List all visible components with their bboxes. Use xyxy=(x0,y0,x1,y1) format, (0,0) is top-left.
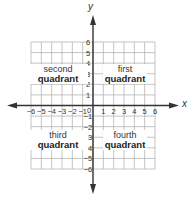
coordinate-plane: −6−5−4−3−2−1123456 654321−1−2−3−4−5−6 0 xyxy=(0,0,194,201)
x-tick-label: 4 xyxy=(132,107,136,116)
x-tick-label: 5 xyxy=(143,107,147,116)
first-quadrant-label: first quadrant xyxy=(103,64,147,84)
third-quadrant-label: third quadrant xyxy=(28,130,88,150)
third-quadrant-line2: quadrant xyxy=(28,140,88,150)
y-tick-label: 5 xyxy=(86,49,90,58)
x-axis-label: x xyxy=(182,98,187,109)
y-axis-label: y xyxy=(88,1,93,12)
y-tick-label: 1 xyxy=(86,91,90,100)
x-tick-label: −5 xyxy=(37,107,46,116)
x-tick-label: 6 xyxy=(153,107,157,116)
x-tick-label: −6 xyxy=(27,107,36,116)
fourth-quadrant-line2: quadrant xyxy=(103,140,147,150)
x-tick-label: −4 xyxy=(47,107,56,116)
x-tick-label: 1 xyxy=(101,107,105,116)
fourth-quadrant-label: fourth quadrant xyxy=(103,130,147,150)
y-tick-label: 6 xyxy=(86,38,90,47)
x-tick-label: 2 xyxy=(112,107,116,116)
second-quadrant-label: second quadrant xyxy=(28,64,88,84)
y-tick-label: −5 xyxy=(84,154,93,163)
first-quadrant-line2: quadrant xyxy=(103,74,147,84)
y-tick-label: −6 xyxy=(84,165,93,174)
x-axis-left-arrow-icon xyxy=(7,103,17,109)
x-tick-label: −2 xyxy=(68,107,77,116)
origin-label: 0 xyxy=(87,106,91,115)
x-tick-label: −3 xyxy=(58,107,67,116)
y-axis-down-arrow-icon xyxy=(90,184,96,194)
x-tick-label: 3 xyxy=(122,107,126,116)
y-axis-up-arrow-icon xyxy=(90,15,96,25)
second-quadrant-line2: quadrant xyxy=(28,74,88,84)
x-axis-right-arrow-icon xyxy=(169,103,179,109)
